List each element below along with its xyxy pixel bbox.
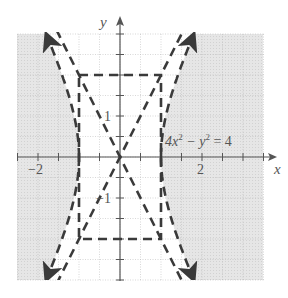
y-tick-label-neg1: −1 bbox=[96, 191, 111, 206]
hyperbola-graph: x y −2 2 1 −1 4x2 − y2 = 4 bbox=[0, 0, 288, 298]
y-axis-label: y bbox=[98, 14, 107, 30]
x-axis-label: x bbox=[273, 161, 281, 177]
x-tick-label-neg2: −2 bbox=[28, 162, 43, 177]
equation-label: 4x2 − y2 = 4 bbox=[165, 132, 232, 149]
y-tick-label-1: 1 bbox=[104, 109, 111, 124]
x-tick-label-2: 2 bbox=[197, 162, 204, 177]
